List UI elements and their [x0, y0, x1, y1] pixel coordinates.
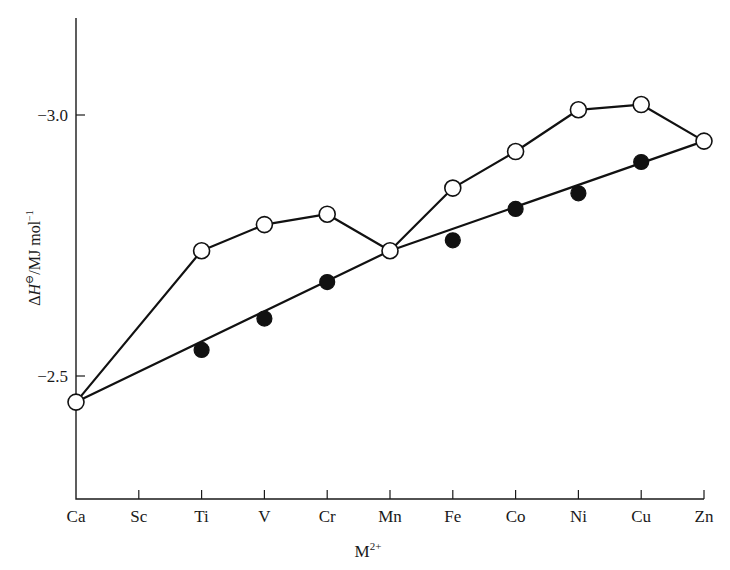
x-tick-label: Cu — [631, 507, 651, 526]
x-tick-label: Fe — [444, 507, 461, 526]
x-tick-label: Zn — [695, 507, 714, 526]
x-tick-label: Ni — [570, 507, 587, 526]
x-tick-label: Cr — [319, 507, 336, 526]
filled-data-point — [257, 311, 272, 326]
y-tick-label: −2.5 — [37, 367, 68, 386]
open-data-point — [68, 394, 84, 410]
chart-area: −3.0−2.5 CaScTiVCrMnFeCoNiCuZn M2+ ΔH⊖/M… — [0, 0, 730, 570]
open-data-point — [319, 206, 335, 222]
open-data-point — [194, 243, 210, 259]
y-tick-label: −3.0 — [37, 106, 68, 125]
open-data-point — [633, 97, 649, 113]
filled-data-point — [634, 154, 649, 169]
x-tick-label: Ti — [194, 507, 209, 526]
x-tick-label: V — [258, 507, 271, 526]
open-data-point — [382, 243, 398, 259]
y-axis-label: ΔH⊖/MJ mol−1 — [23, 210, 43, 306]
filled-data-point — [320, 275, 335, 290]
x-tick-label: Mn — [378, 507, 402, 526]
open-data-point — [256, 217, 272, 233]
open-data-point — [570, 102, 586, 118]
x-tick-label: Co — [506, 507, 526, 526]
open-data-point — [508, 144, 524, 160]
x-axis-label: M2+ — [355, 540, 382, 561]
series-markers — [68, 97, 712, 411]
filled-data-point — [194, 342, 209, 357]
filled-data-point — [571, 186, 586, 201]
filled-data-point — [508, 201, 523, 216]
reference-line — [76, 141, 704, 402]
x-tick-label: Sc — [130, 507, 147, 526]
x-axis-ticks: CaScTiVCrMnFeCoNiCuZn — [67, 490, 714, 526]
open-data-point — [445, 180, 461, 196]
filled-data-point — [445, 233, 460, 248]
open-data-point — [696, 133, 712, 149]
y-axis-ticks: −3.0−2.5 — [37, 106, 85, 386]
x-tick-label: Ca — [67, 507, 86, 526]
